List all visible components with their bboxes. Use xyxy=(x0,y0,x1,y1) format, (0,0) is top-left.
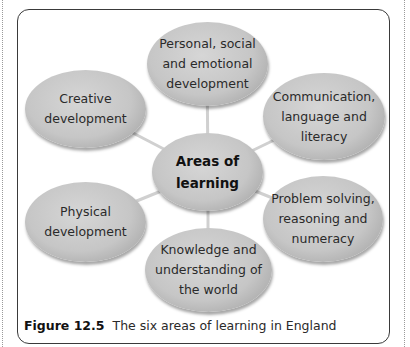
node-areas-of-learning: Areas of learning xyxy=(152,133,263,211)
node-label: Problem solving, reasoning and numeracy xyxy=(271,189,374,249)
node-knowledge-understanding: Knowledge and understanding of the world xyxy=(145,228,272,312)
node-label: Creative development xyxy=(44,89,126,129)
node-label: Knowledge and understanding of the world xyxy=(155,240,262,300)
caption-text: The six areas of learning in England xyxy=(113,318,337,333)
node-creative-development: Creative development xyxy=(25,70,146,148)
figure-caption: Figure 12.5 The six areas of learning in… xyxy=(24,318,337,333)
center-label: Areas of learning xyxy=(176,150,239,194)
node-label: Physical development xyxy=(44,202,126,242)
figure-number: Figure 12.5 xyxy=(24,318,105,333)
node-communication-language-literacy: Communication, language and literacy xyxy=(263,73,385,160)
node-personal-social-emotional: Personal, social and emotional developme… xyxy=(147,22,268,106)
node-physical-development: Physical development xyxy=(25,182,146,262)
node-label: Personal, social and emotional developme… xyxy=(159,34,256,94)
node-problem-solving: Problem solving, reasoning and numeracy xyxy=(263,176,383,262)
node-label: Communication, language and literacy xyxy=(273,87,376,147)
